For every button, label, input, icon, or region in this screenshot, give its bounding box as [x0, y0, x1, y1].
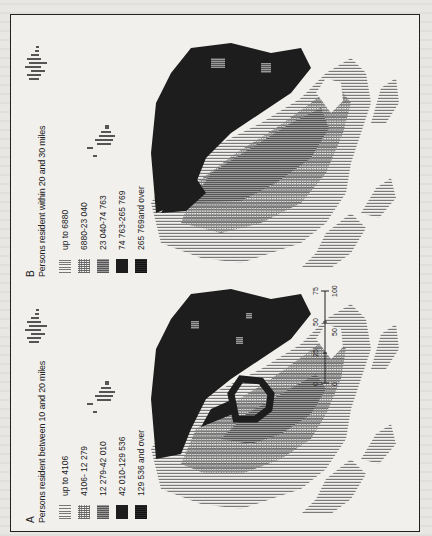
legend-item: 265 769and over	[131, 186, 150, 273]
legend-item: up to 6880	[55, 186, 74, 273]
legend-label: 4106- 12 279	[79, 446, 89, 496]
scale-tick-miles: 0	[312, 382, 319, 386]
legend-label: up to 4106	[60, 456, 70, 496]
scale-tick-km: 50	[331, 328, 338, 336]
scale-tick-miles: 50	[312, 318, 319, 326]
legend-item: 74 763-265 769	[112, 186, 131, 273]
map-a	[151, 287, 401, 519]
legend-item: 42 010-129 536	[112, 430, 131, 519]
legend: up to 4106 4106- 12 279 12 279-42 010 42…	[55, 430, 150, 519]
swatch-medium	[97, 259, 109, 273]
legend-label: 23 040-74 763	[98, 195, 108, 250]
swatch-light	[59, 505, 71, 519]
rotated-figure: A Persons resident between 10 and 20 mil…	[11, 15, 420, 532]
figure-frame: A Persons resident between 10 and 20 mil…	[10, 14, 420, 532]
legend-item: 23 040-74 763	[93, 186, 112, 273]
legend-label: 12 279-42 010	[98, 441, 108, 496]
panel-b: B Persons resident within 20 and 30 mile…	[11, 28, 420, 283]
scale-tick-km: 0	[331, 382, 338, 386]
swatch-crosshatch	[78, 505, 90, 519]
legend-item: 129 536 and over	[131, 430, 150, 519]
legend: up to 6880 6880-23 040 23 040-74 763 74 …	[55, 186, 150, 273]
scale-tick-miles: 75	[312, 287, 319, 295]
swatch-black	[135, 259, 147, 273]
legend-title: Persons resident between 10 and 20 miles	[37, 361, 47, 523]
legend-label: 6880-23 040	[79, 202, 89, 250]
swatch-black	[135, 505, 147, 519]
island-shetland-icon	[21, 28, 51, 88]
swatch-crosshatch	[78, 259, 90, 273]
island-orkney-icon	[83, 369, 123, 419]
panel-a: A Persons resident between 10 and 20 mil…	[11, 274, 420, 529]
scale-labels: 0 25 50 75 0 50 100	[311, 279, 351, 389]
legend-item: 4106- 12 279	[74, 430, 93, 519]
legend-label: 129 536 and over	[136, 430, 146, 496]
legend-item: up to 4106	[55, 430, 74, 519]
legend-item: 6880-23 040	[74, 186, 93, 273]
swatch-light	[59, 259, 71, 273]
legend-label: 74 763-265 769	[117, 190, 127, 250]
legend-title: Persons resident within 20 and 30 miles	[37, 126, 47, 277]
legend-item: 12 279-42 010	[93, 430, 112, 519]
swatch-dark	[116, 505, 128, 519]
island-shetland-icon	[21, 291, 51, 351]
panel-letter: B	[25, 270, 36, 277]
panel-letter: A	[25, 516, 36, 523]
scale-tick-miles: 25	[312, 349, 319, 357]
legend-label: 265 769and over	[136, 186, 146, 250]
map-b	[151, 41, 401, 273]
scale-tick-km: 100	[331, 285, 338, 297]
swatch-medium	[97, 505, 109, 519]
legend-label: up to 6880	[60, 210, 70, 250]
island-orkney-icon	[83, 113, 123, 163]
swatch-dark	[116, 259, 128, 273]
legend-label: 42 010-129 536	[117, 436, 127, 496]
